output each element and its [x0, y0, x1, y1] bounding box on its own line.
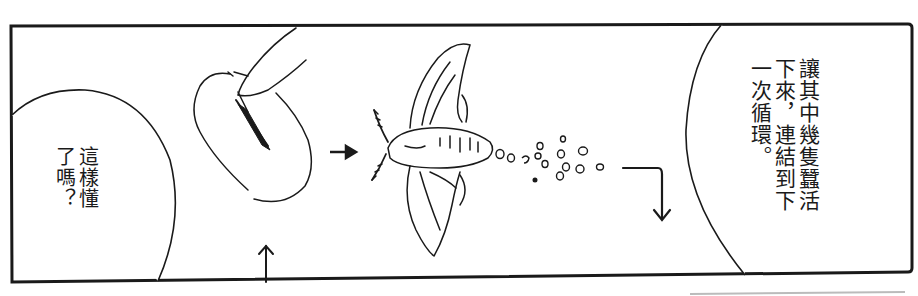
speech-line: 這樣懂 [75, 146, 98, 256]
arrow-up-icon [259, 246, 273, 282]
next-panel-edge [690, 292, 905, 294]
speech-line: 了嗎？ [52, 146, 75, 256]
finger-icon [238, 28, 306, 96]
speech-line: 一次循環。 [748, 58, 772, 258]
arrow-right-icon [330, 146, 356, 158]
speech-bubble-left-text: 這樣懂 了嗎？ [52, 146, 98, 256]
speech-bubble-right [686, 24, 745, 275]
cocoon-icon [194, 72, 311, 202]
arrow-bend-down-icon [623, 168, 670, 220]
speech-line: 下來，連結到下 [772, 58, 796, 258]
speech-bubble-right-text: 讓其中幾隻蠶活 下來，連結到下 一次循環。 [748, 58, 820, 258]
silk-moth-icon [372, 44, 493, 256]
speech-line: 讓其中幾隻蠶活 [796, 58, 820, 258]
eggs-icon [496, 136, 604, 182]
